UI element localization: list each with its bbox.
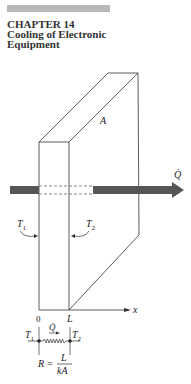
thickness-label: L (66, 313, 73, 324)
resistance-denominator: kA (57, 365, 68, 376)
resistance-numerator: L (60, 352, 67, 363)
x-axis-arrowhead (124, 308, 131, 312)
t2-pointer (73, 231, 89, 236)
x-axis-label: x (132, 304, 138, 315)
t1-label: T1 (17, 218, 27, 232)
circuit-heat-rate-label: Q̇ (49, 322, 56, 332)
t2-pointer-head (71, 234, 75, 238)
heat-rate-label: Q̇ (174, 169, 182, 180)
heat-arrow-in (10, 186, 39, 194)
resistance-equation: R = (37, 358, 53, 369)
area-label: A (99, 115, 107, 126)
plane-wall-figure: Q̇ A T1 T2 x 0 L Q̇ T1 T2 R = L kA (0, 0, 191, 384)
t2-label: T2 (86, 218, 96, 232)
origin-label: 0 (36, 314, 41, 324)
node-t1 (37, 339, 41, 343)
circuit-t1-label: T1 (25, 329, 35, 343)
thermal-circuit: Q̇ T1 T2 R = L kA (25, 322, 82, 376)
t1-pointer-head (34, 234, 38, 238)
